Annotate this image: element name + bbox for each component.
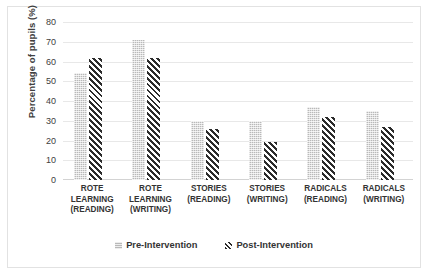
x-axis-tick-label-line: STORIES: [238, 184, 296, 195]
bar-group: [63, 22, 121, 180]
x-axis-tick-label-line: STORIES: [180, 184, 238, 195]
bar-post-intervention: [147, 58, 160, 180]
bar-group: [296, 22, 354, 180]
bar-group: [355, 22, 413, 180]
bar-post-intervention: [322, 117, 335, 180]
x-axis-tick-label: STORIES(READING): [180, 184, 238, 205]
x-axis-tick-label: ROTELEARNING(WRITING): [121, 184, 179, 216]
x-axis-tick-label-line: (WRITING): [121, 205, 179, 216]
legend-entry: Post-Intervention: [225, 240, 312, 250]
y-axis-tick-label: 70: [30, 37, 56, 47]
x-axis-tick-label-line: (READING): [296, 195, 354, 206]
bar-post-intervention: [206, 129, 219, 180]
x-axis-tick-label: STORIES(WRITING): [238, 184, 296, 205]
bar-pre-intervention: [74, 73, 87, 180]
plot-area: [63, 22, 413, 180]
x-axis-tick-label: RADICALS(WRITING): [355, 184, 413, 205]
x-axis-tick-label-line: (READING): [63, 205, 121, 216]
x-axis-tick-label-line: ROTE: [121, 184, 179, 195]
y-axis-tick-label: 30: [30, 116, 56, 126]
x-axis-tick-label-line: ROTE: [63, 184, 121, 195]
x-axis-tick-label: ROTELEARNING(READING): [63, 184, 121, 216]
x-axis-tick-label-line: RADICALS: [296, 184, 354, 195]
x-axis-tick-label-line: (READING): [180, 195, 238, 206]
y-axis-tick-label: 60: [30, 57, 56, 67]
bar-post-intervention: [264, 142, 277, 180]
bar-group: [180, 22, 238, 180]
legend-label: Post-Intervention: [236, 240, 312, 250]
bar-post-intervention: [89, 58, 102, 180]
x-axis-tick-label-line: LEARNING: [63, 195, 121, 206]
x-axis-tick-label-line: RADICALS: [355, 184, 413, 195]
x-axis-tick-label-line: (WRITING): [355, 195, 413, 206]
bar-post-intervention: [381, 127, 394, 180]
y-axis-tick-label: 50: [30, 76, 56, 86]
y-axis-tick-label: 80: [30, 17, 56, 27]
legend-entry: Pre-Intervention: [115, 240, 197, 250]
chart-legend: Pre-InterventionPost-Intervention: [0, 240, 428, 250]
x-axis-tick-label-line: (WRITING): [238, 195, 296, 206]
x-axis-tick-label-line: LEARNING: [121, 195, 179, 206]
legend-label: Pre-Intervention: [126, 240, 197, 250]
bar-group: [121, 22, 179, 180]
bar-chart-figure: Percentage of pupils (%) 010203040506070…: [0, 0, 428, 276]
bar-pre-intervention: [307, 107, 320, 180]
y-axis-tick-label: 20: [30, 136, 56, 146]
bar-pre-intervention: [249, 121, 262, 180]
y-axis-tick-label: 0: [30, 175, 56, 185]
bar-group: [238, 22, 296, 180]
x-axis-tick-labels: ROTELEARNING(READING)ROTELEARNING(WRITIN…: [63, 184, 413, 228]
y-axis-tick-label: 40: [30, 96, 56, 106]
bars-layer: [63, 22, 413, 180]
y-axis-tick-label: 10: [30, 155, 56, 165]
bar-pre-intervention: [366, 111, 379, 180]
dotted-square-icon: [115, 242, 122, 249]
bar-pre-intervention: [132, 40, 145, 180]
hatched-square-icon: [225, 242, 232, 249]
x-axis-tick-label: RADICALS(READING): [296, 184, 354, 205]
bar-pre-intervention: [191, 121, 204, 180]
